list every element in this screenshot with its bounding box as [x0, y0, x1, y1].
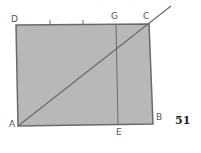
label-c: C — [143, 12, 149, 21]
label-a: A — [9, 120, 15, 129]
label-g: G — [111, 12, 118, 21]
label-e: E — [116, 128, 122, 137]
geometry-figure — [0, 0, 201, 153]
label-b: B — [156, 113, 162, 122]
label-d: D — [11, 15, 18, 24]
figure-number: 51 — [175, 115, 190, 126]
